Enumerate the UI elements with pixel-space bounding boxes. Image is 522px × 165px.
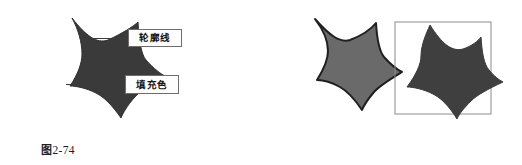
figure-2-75: （a） （b） 图2-75: [260, 0, 522, 165]
callout-fill: 填充色: [125, 75, 179, 94]
caption-number: 2-74: [53, 144, 75, 156]
callout-outline: 轮廓线: [128, 29, 182, 47]
star-shape-outlined: [315, 19, 402, 110]
figure-2-74-canvas: [0, 0, 260, 132]
figure-2-74-caption: 图2-74: [0, 141, 188, 157]
leader-line-outline: [88, 38, 128, 39]
subfigure-b-graphic: [395, 22, 503, 119]
figure-2-74: 轮廓线 填充色 图2-74: [0, 0, 260, 165]
caption-label-zh: 图: [41, 144, 52, 157]
subfigure-a-graphic: [315, 19, 402, 110]
star-shape-selected: [407, 25, 503, 119]
figure-2-75-canvas: [260, 0, 522, 132]
leader-line-fill: [66, 84, 125, 85]
figure-2-75-caption: 图2-75: [412, 141, 522, 157]
